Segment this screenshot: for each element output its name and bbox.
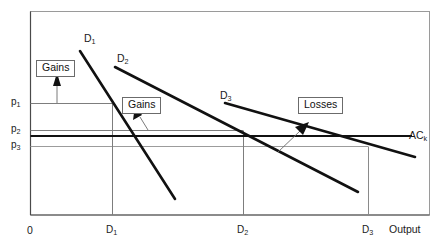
curve-label-d2: D2 bbox=[117, 53, 129, 64]
y-tick-p3-base: p bbox=[11, 139, 17, 150]
losses-leader-line bbox=[278, 131, 300, 152]
callout-losses[interactable]: Losses bbox=[298, 97, 343, 114]
x-axis-title: Output bbox=[389, 224, 421, 235]
ac-base: AC bbox=[409, 129, 424, 141]
curve-d2-sub: 2 bbox=[125, 57, 129, 66]
x-tick-d1-sub: 1 bbox=[113, 228, 117, 237]
curve-label-d1: D1 bbox=[84, 33, 96, 44]
curve-d1-base: D bbox=[84, 32, 92, 44]
callout-gains-upper-left[interactable]: Gains bbox=[36, 60, 75, 77]
curve-label-average-cost: ACk bbox=[409, 130, 427, 141]
y-tick-p2-base: p bbox=[11, 123, 17, 134]
curve-d1-sub: 1 bbox=[92, 37, 96, 46]
diagram-svg bbox=[0, 0, 442, 249]
x-tick-label-d2: D2 bbox=[237, 225, 248, 235]
curve-d2-base: D bbox=[117, 52, 125, 64]
x-tick-label-d1: D1 bbox=[106, 225, 117, 235]
y-tick-p1-sub: 1 bbox=[17, 100, 21, 109]
callout-gains-middle[interactable]: Gains bbox=[122, 97, 161, 114]
y-tick-label-p2: p2 bbox=[11, 124, 21, 134]
y-tick-p3-sub: 3 bbox=[17, 143, 21, 152]
figure-canvas: p1 p2 p3 0 D1 D2 D3 Output D1 D2 D3 ACk … bbox=[0, 0, 442, 249]
x-tick-label-d3: D3 bbox=[362, 225, 373, 235]
y-tick-p2-sub: 2 bbox=[17, 127, 21, 136]
y-tick-p1-base: p bbox=[11, 96, 17, 107]
curve-d3-sub: 3 bbox=[228, 94, 232, 103]
gains-middle-leader-line bbox=[140, 117, 148, 130]
curve-label-d3: D3 bbox=[220, 90, 232, 101]
ac-sub: k bbox=[424, 134, 428, 143]
x-tick-d2-sub: 2 bbox=[244, 228, 248, 237]
curve-d3-base: D bbox=[220, 89, 228, 101]
y-tick-label-p3: p3 bbox=[11, 140, 21, 150]
x-tick-d3-sub: 3 bbox=[369, 228, 373, 237]
x-tick-label-origin: 0 bbox=[27, 225, 33, 236]
y-tick-label-p1: p1 bbox=[11, 97, 21, 107]
